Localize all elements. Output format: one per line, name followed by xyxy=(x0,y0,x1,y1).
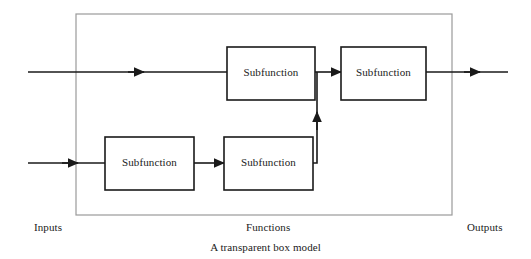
region-label-functions: Functions xyxy=(246,221,290,233)
box-label-subfunction-top-middle: Subfunction xyxy=(227,67,315,78)
transparent-box-model-figure: Subfunction Subfunction Subfunction Subf… xyxy=(0,0,531,259)
figure-caption: A transparent box model xyxy=(0,241,531,253)
region-label-inputs: Inputs xyxy=(34,221,62,233)
region-label-outputs: Outputs xyxy=(467,221,503,233)
box-label-subfunction-bottom-left: Subfunction xyxy=(105,157,194,168)
box-label-subfunction-top-right: Subfunction xyxy=(341,67,426,78)
box-label-subfunction-bottom-middle: Subfunction xyxy=(224,157,313,168)
